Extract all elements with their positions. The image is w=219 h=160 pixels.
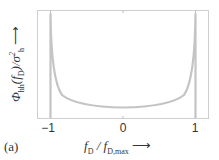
x-tick-label-1: 1 — [192, 121, 199, 135]
x-tick-label-0: 0 — [120, 121, 127, 135]
doppler-spectrum-curve — [51, 14, 196, 118]
y-arrow-icon: ⟶ — [8, 26, 23, 45]
plot-area — [0, 0, 219, 160]
x-tick-label-neg1: −1 — [41, 121, 55, 135]
plot-frame — [38, 11, 209, 119]
y-axis-label: Φhh(fD)/σ2h ⟶ — [8, 9, 26, 119]
panel-label: (a) — [4, 139, 18, 155]
x-axis-label: fD / fD,max ⟶ — [84, 138, 151, 156]
x-arrow-icon: ⟶ — [132, 138, 151, 153]
